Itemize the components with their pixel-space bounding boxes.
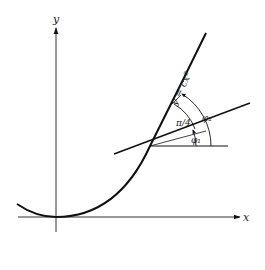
x-axis-label: x [243,211,250,224]
pi-over-4-label: π/4 [175,118,191,128]
curve-label: y = cx² [167,70,193,108]
phi2-label: φ₂ [202,113,212,123]
y-axis-label: y [52,13,60,26]
parabola-tangent-diagram: x y y = cx² π/4 φ₂ φ₁ [0,0,265,270]
phi1-label: φ₁ [191,135,201,145]
